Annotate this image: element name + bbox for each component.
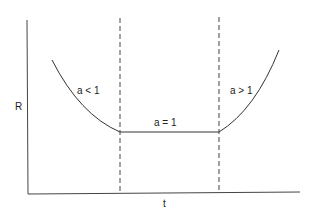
diagram-canvas xyxy=(0,0,310,212)
label-a-less-than-1: a < 1 xyxy=(77,86,100,96)
x-axis xyxy=(28,192,300,194)
y-axis-label: R xyxy=(15,102,22,112)
x-axis-label: t xyxy=(163,199,166,209)
curve-a-less-than-1 xyxy=(52,60,120,132)
y-axis xyxy=(27,20,28,194)
label-a-equals-1: a = 1 xyxy=(154,118,177,128)
label-a-greater-than-1: a > 1 xyxy=(230,86,253,96)
